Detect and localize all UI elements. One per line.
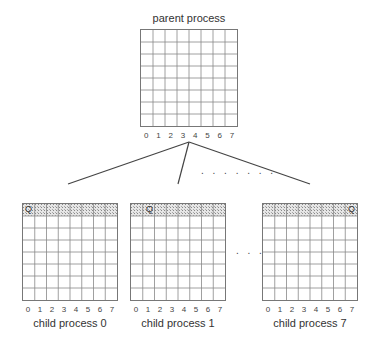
child-1-column-labels: 0 1 2 3 4 5 6 7 xyxy=(130,305,226,314)
column-label: 2 xyxy=(46,305,58,314)
child-0-column-labels: 0 1 2 3 4 5 6 7 xyxy=(22,305,118,314)
child-1-board-grid: Q xyxy=(130,203,226,301)
queen-marker: Q xyxy=(348,205,355,214)
column-label: 6 xyxy=(334,305,346,314)
column-label: 1 xyxy=(34,305,46,314)
column-label: 6 xyxy=(94,305,106,314)
column-label: 5 xyxy=(322,305,334,314)
child-grid-lines xyxy=(23,204,117,300)
column-label: 1 xyxy=(142,305,154,314)
column-label: 4 xyxy=(310,305,322,314)
child-0-label: child process 0 xyxy=(22,317,118,329)
column-label: 3 xyxy=(166,305,178,314)
column-label: 5 xyxy=(82,305,94,314)
column-label: 0 xyxy=(22,305,34,314)
column-label: 3 xyxy=(58,305,70,314)
column-label: 1 xyxy=(274,305,286,314)
child-7-label: child process 7 xyxy=(262,317,358,329)
column-label: 2 xyxy=(154,305,166,314)
child-grid-lines xyxy=(263,204,357,300)
column-label: 0 xyxy=(262,305,274,314)
connector-to-child-0 xyxy=(68,142,189,184)
column-label: 7 xyxy=(214,305,226,314)
column-label: 5 xyxy=(190,305,202,314)
column-label: 2 xyxy=(286,305,298,314)
column-label: 0 xyxy=(130,305,142,314)
child-0-board-grid: Q xyxy=(22,203,118,301)
queen-marker: Q xyxy=(25,205,32,214)
connector-ellipsis: . . . . . . . xyxy=(201,166,276,176)
child-7-column-labels: 0 1 2 3 4 5 6 7 xyxy=(262,305,358,314)
queen-marker: Q xyxy=(146,205,153,214)
column-label: 6 xyxy=(202,305,214,314)
child-1-label: child process 1 xyxy=(130,317,226,329)
column-label: 7 xyxy=(106,305,118,314)
child-7-board-grid: Q xyxy=(262,203,358,301)
column-label: 4 xyxy=(70,305,82,314)
children-ellipsis: . . . xyxy=(236,246,265,256)
connector-to-child-1 xyxy=(178,142,189,184)
child-grid-lines xyxy=(131,204,225,300)
connector-to-child-7 xyxy=(189,142,310,184)
column-label: 7 xyxy=(346,305,358,314)
column-label: 4 xyxy=(178,305,190,314)
column-label: 3 xyxy=(298,305,310,314)
